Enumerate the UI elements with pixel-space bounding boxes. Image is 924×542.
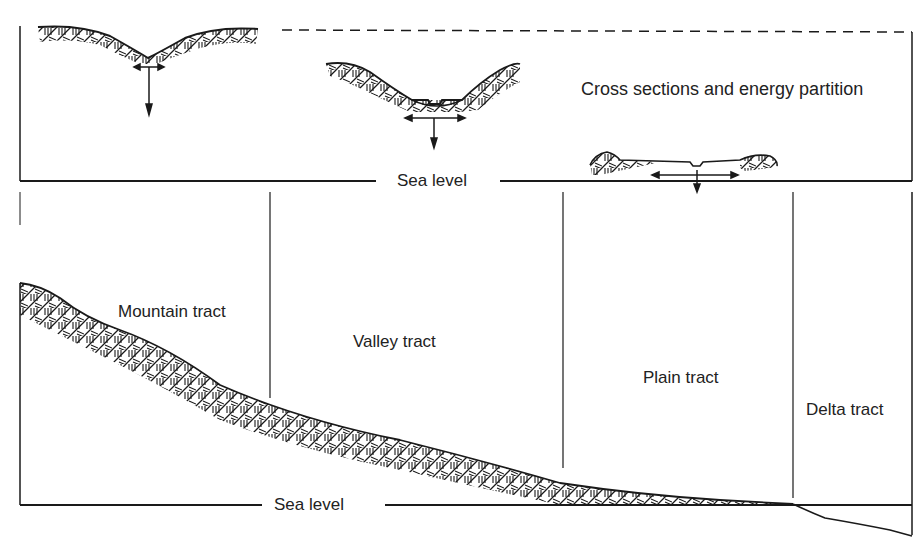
diagram-title: Cross sections and energy partition xyxy=(581,80,863,98)
bottom-sea-level-label: Sea level xyxy=(274,496,344,513)
mountain-cross-section xyxy=(38,26,258,115)
tract-label-delta: Delta tract xyxy=(806,401,883,418)
valley-cross-section xyxy=(326,63,520,148)
energy-arrows-icon xyxy=(405,115,465,148)
plain-cross-section xyxy=(590,152,777,192)
tract-label-mountain: Mountain tract xyxy=(118,303,226,320)
energy-arrows-icon xyxy=(134,64,164,115)
tract-label-valley: Valley tract xyxy=(353,333,436,350)
top-sea-level-label: Sea level xyxy=(397,172,467,189)
tract-label-plain: Plain tract xyxy=(643,369,719,386)
